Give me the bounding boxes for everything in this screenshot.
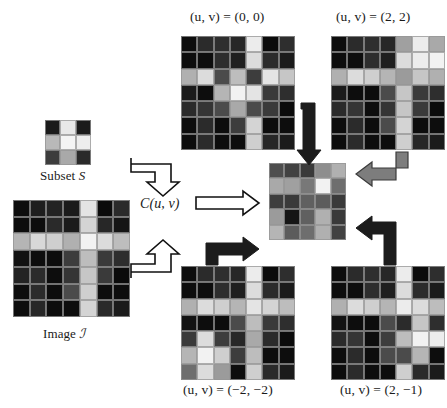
- grid-cell: [214, 134, 230, 150]
- grid-cell: [197, 282, 213, 298]
- arrow-image-to-correlation: [131, 240, 179, 278]
- grid-cell: [396, 52, 412, 68]
- grid-cell: [80, 217, 97, 234]
- grid-cell: [30, 267, 47, 284]
- grid-cell: [279, 364, 295, 380]
- grid-cell: [269, 194, 284, 209]
- grid-cell: [429, 36, 445, 52]
- grid-cell: [429, 117, 445, 133]
- grid-cell: [246, 315, 262, 331]
- grid-cell: [262, 117, 278, 133]
- label-shift-2-2: (u, v) = (2, 2): [336, 9, 410, 25]
- grid-cell: [380, 101, 396, 117]
- grid-cell: [347, 315, 363, 331]
- grid-cell: [214, 282, 230, 298]
- grid-cell: [230, 364, 246, 380]
- grid-cell: [396, 331, 412, 347]
- grid-cell: [429, 315, 445, 331]
- grid-cell: [429, 85, 445, 101]
- grid-cell: [13, 217, 30, 234]
- grid-cell: [284, 178, 299, 193]
- grid-cell: [380, 315, 396, 331]
- grid-cell: [197, 117, 213, 133]
- grid-cell: [97, 267, 114, 284]
- grid-cell: [364, 52, 380, 68]
- grid-cell: [214, 364, 230, 380]
- grid-cell: [279, 347, 295, 363]
- grid-cell: [246, 134, 262, 150]
- grid-cell: [396, 266, 412, 282]
- grid-cell: [364, 347, 380, 363]
- figure-root: (u, v) = (0, 0) (u, v) = (2, 2) (u, v) =…: [0, 0, 447, 408]
- grid-cell: [181, 347, 197, 363]
- grid-cell: [284, 209, 299, 224]
- grid-cell: [331, 194, 346, 209]
- grid-cell: [181, 266, 197, 282]
- grid-cell: [262, 315, 278, 331]
- grid-cell: [364, 266, 380, 282]
- grid-cell: [429, 282, 445, 298]
- grid-cell: [80, 200, 97, 217]
- grid-cell: [13, 200, 30, 217]
- grid-cell: [197, 52, 213, 68]
- grid-cell: [246, 117, 262, 133]
- grid-cell: [380, 364, 396, 380]
- grid-cell: [269, 178, 284, 193]
- grid-cell: [380, 52, 396, 68]
- grid-cell: [46, 300, 63, 317]
- grid-cell: [300, 225, 315, 240]
- grid-cell: [412, 331, 428, 347]
- grid-cell: [230, 331, 246, 347]
- grid-cell: [262, 331, 278, 347]
- grid-cell: [380, 85, 396, 101]
- grid-cell: [46, 217, 63, 234]
- label-image-text: Image: [43, 326, 76, 341]
- grid-cell: [315, 163, 330, 178]
- grid-cell: [197, 101, 213, 117]
- grid-cell: [364, 282, 380, 298]
- grid-cell: [269, 209, 284, 224]
- grid-cell: [181, 299, 197, 315]
- grid-cell: [396, 315, 412, 331]
- grid-cell: [46, 267, 63, 284]
- grid-cell: [412, 36, 428, 52]
- grid-cell: [429, 331, 445, 347]
- grid-cell: [113, 284, 130, 301]
- grid-cell: [113, 233, 130, 250]
- grid-cell: [63, 217, 80, 234]
- label-subset-text: Subset: [40, 168, 75, 183]
- grid-cell: [331, 209, 346, 224]
- grid-cell: [246, 299, 262, 315]
- grid-cell: [262, 347, 278, 363]
- label-shift-m2-m2: (u, v) = (−2, −2): [183, 382, 273, 398]
- grid-cell: [76, 120, 91, 135]
- grid-cell: [331, 266, 347, 282]
- grid-cell: [364, 101, 380, 117]
- grid-cell: [331, 101, 347, 117]
- grid-cell: [197, 134, 213, 150]
- grid-cell: [262, 134, 278, 150]
- grid-cell: [80, 284, 97, 301]
- grid-cell: [412, 315, 428, 331]
- grid-cell: [380, 266, 396, 282]
- grid-cell: [279, 117, 295, 133]
- grid-cell: [364, 315, 380, 331]
- grid-cell: [45, 135, 60, 150]
- grid-cell: [246, 52, 262, 68]
- grid-cell: [300, 178, 315, 193]
- grid-cell: [347, 364, 363, 380]
- grid-cell: [315, 194, 330, 209]
- grid-cell: [76, 150, 91, 165]
- image-grid: [13, 200, 130, 317]
- grid-cell: [331, 36, 347, 52]
- grid-cell: [300, 209, 315, 224]
- grid-cell: [331, 178, 346, 193]
- grid-cell: [429, 69, 445, 85]
- grid-cell: [97, 284, 114, 301]
- grid-cell: [46, 250, 63, 267]
- grid-cell: [113, 300, 130, 317]
- grid-cell: [246, 282, 262, 298]
- grid-cell: [396, 69, 412, 85]
- grid-cell: [347, 36, 363, 52]
- grid-cell: [364, 134, 380, 150]
